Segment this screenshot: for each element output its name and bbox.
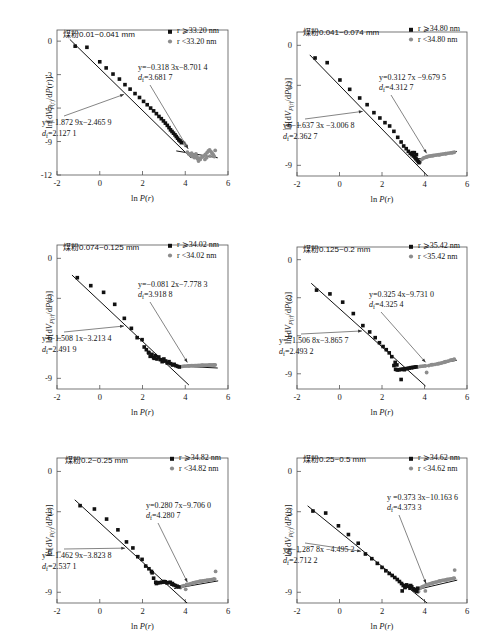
y-tick-label: 0 [48, 253, 52, 263]
data-point-large-pore [411, 151, 415, 155]
data-point-small-pore [443, 360, 447, 364]
df-small-pore: df=2.491 9 [42, 345, 76, 355]
data-point-large-pore [180, 141, 184, 145]
data-point-large-pore [162, 580, 166, 584]
data-point-large-pore [348, 88, 352, 92]
x-tick-label: 6 [226, 606, 230, 616]
data-point-small-pore [208, 154, 212, 158]
data-point-large-pore [341, 300, 345, 304]
plot-panel-1: -202460-3-6-9-12煤粉0.01~0.041 mmr ⩾33.20 … [0, 0, 239, 215]
df-small-pore: df=2.127 1 [42, 129, 76, 139]
y-tick-label: -9 [285, 369, 292, 379]
data-point-large-pore [102, 291, 106, 295]
data-point-large-pore [147, 351, 151, 355]
regression-line-small-pore [70, 39, 191, 157]
data-point-small-pore [436, 362, 440, 366]
x-tick-label: 4 [422, 392, 427, 402]
data-point-large-pore [152, 357, 156, 361]
y-tick-label: 0 [48, 36, 52, 46]
leader-arrow-small-pore-head [121, 547, 125, 550]
chart-panel-4: -202460-3-6-9煤粉0.125~0.2 mmr ⩾35.42 nmr … [239, 215, 479, 428]
data-point-large-pore [155, 582, 159, 586]
x-axis-label: lnP(r) [371, 194, 394, 204]
leader-arrow-large-pore [399, 515, 426, 583]
data-point-large-pore [140, 558, 144, 562]
legend-label-small-pore: r <34.62 nm [418, 464, 458, 473]
data-point-large-pore [123, 83, 127, 87]
data-point-large-pore [384, 569, 388, 573]
legend-marker-circle-icon [409, 466, 413, 470]
df-large-pore: df=4.312 7 [379, 83, 413, 93]
data-point-large-pore [358, 96, 362, 100]
data-point-small-pore [431, 154, 435, 158]
x-tick-label: 2 [380, 606, 384, 616]
legend-marker-square-icon [409, 245, 413, 249]
x-axis-label: lnP(r) [371, 407, 394, 417]
data-point-small-pore [190, 151, 194, 155]
data-point-large-pore [171, 582, 175, 586]
panel-title: 煤粉0.25~0.5 mm [303, 454, 366, 464]
data-point-large-pore [116, 528, 120, 532]
data-point-large-pore [118, 77, 122, 81]
leader-arrow-small-pore-head [120, 94, 124, 97]
data-point-small-pore [450, 151, 454, 155]
leader-arrow-small-pore [64, 326, 124, 332]
data-point-small-pore [445, 578, 449, 582]
data-point-large-pore [313, 56, 317, 60]
data-point-large-pore [400, 589, 404, 593]
data-point-large-pore [338, 78, 342, 82]
x-tick-label: 2 [380, 392, 384, 402]
data-point-large-pore [111, 72, 115, 76]
x-tick-label: 0 [98, 392, 102, 402]
x-tick-label: 6 [226, 178, 230, 188]
df-small-pore: df=2.537 1 [42, 562, 76, 572]
leader-arrow-large-pore [391, 95, 427, 153]
data-point-large-pore [89, 284, 93, 288]
panel-title: 煤粉0.01~0.041 mm [63, 29, 135, 39]
data-point-large-pore [125, 540, 129, 544]
plot-panel-4: -202460-3-6-9煤粉0.125~0.2 mmr ⩾35.42 nmr … [239, 215, 479, 428]
data-point-small-pore [431, 581, 435, 585]
data-point-large-pore [373, 336, 377, 340]
data-point-large-pore [131, 546, 135, 550]
leader-arrow-small-pore [301, 331, 362, 334]
df-large-pore: df=4.325 4 [369, 300, 403, 310]
legend-marker-circle-icon [409, 254, 413, 258]
data-point-large-pore [368, 330, 372, 334]
data-point-large-pore [133, 92, 137, 96]
legend-label-small-pore: r <34.80 nm [418, 35, 458, 44]
legend-label-small-pore: r <35.42 nm [418, 252, 458, 261]
x-tick-label: 4 [183, 606, 188, 616]
data-point-large-pore [145, 103, 149, 107]
legend-label-large-pore: r ⩾34.02 nm [177, 240, 220, 249]
data-point-small-pore [184, 587, 188, 591]
data-point-small-pore [444, 152, 448, 156]
data-point-large-pore [73, 44, 77, 48]
data-point-large-pore [123, 317, 127, 321]
data-point-large-pore [324, 511, 328, 515]
data-point-large-pore [416, 586, 420, 590]
x-tick-label: 0 [98, 606, 102, 616]
data-point-large-pore [365, 103, 369, 107]
leader-arrow-large-pore [150, 85, 188, 149]
leader-arrow-large-pore-head [423, 579, 426, 583]
x-tick-label: 6 [226, 392, 230, 402]
data-point-large-pore [337, 524, 341, 528]
data-point-large-pore [380, 566, 384, 570]
data-point-small-pore [437, 153, 441, 157]
y-tick-label: 0 [288, 255, 292, 265]
data-point-large-pore [104, 66, 108, 70]
data-point-large-pore [76, 276, 80, 280]
data-point-small-pore [212, 577, 216, 581]
chart-panel-1: -202460-3-6-9-12煤粉0.01~0.041 mmr ⩾33.20 … [0, 0, 239, 215]
legend-label-large-pore: r ⩾33.20 nm [177, 26, 220, 35]
panel-title: 煤粉0.041~0.074 mm [303, 27, 380, 37]
x-tick-label: -2 [293, 392, 300, 402]
data-point-large-pore [140, 338, 144, 342]
x-tick-label: 2 [140, 392, 144, 402]
data-point-large-pore [403, 368, 407, 372]
data-point-small-pore [425, 371, 429, 375]
legend-marker-square-icon [168, 244, 172, 248]
data-point-large-pore [399, 378, 403, 382]
data-point-large-pore [161, 359, 165, 363]
